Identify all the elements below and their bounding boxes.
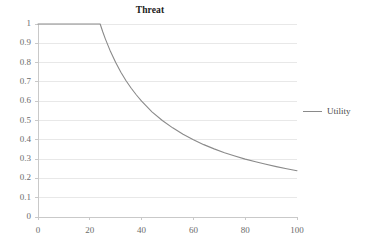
x-axis-tick-label: 80 [230, 225, 260, 235]
y-axis-tick-label: 0.5 [5, 115, 31, 125]
y-axis-tick-label: 0.9 [5, 37, 31, 47]
y-axis-tick-label: 0.3 [5, 153, 31, 163]
axes-group [35, 24, 297, 220]
plot-area [0, 0, 376, 246]
y-axis-tick-label: 0.4 [5, 134, 31, 144]
x-axis-tick-label: 60 [178, 225, 208, 235]
x-axis-tick-label: 20 [75, 225, 105, 235]
x-axis-tick-label: 0 [23, 225, 53, 235]
legend-line-swatch [303, 111, 322, 112]
y-axis-tick-label: 0.7 [5, 76, 31, 86]
x-axis-tick-label: 100 [282, 225, 312, 235]
data-series-group [38, 24, 297, 171]
x-axis-tick-label: 40 [127, 225, 157, 235]
y-axis-tick-label: 0.8 [5, 57, 31, 67]
chart-legend: Utility [303, 106, 351, 116]
series-line-utility [38, 24, 297, 171]
y-axis-tick-label: 0.1 [5, 192, 31, 202]
y-axis-tick-label: 1 [5, 18, 31, 28]
y-axis-tick-label: 0.6 [5, 95, 31, 105]
chart-container: Threat 00.10.20.30.40.50.60.70.80.910204… [0, 0, 376, 246]
gridlines-group [38, 24, 297, 198]
y-axis-tick-label: 0 [5, 211, 31, 221]
legend-item-label: Utility [327, 106, 351, 116]
y-axis-tick-label: 0.2 [5, 172, 31, 182]
